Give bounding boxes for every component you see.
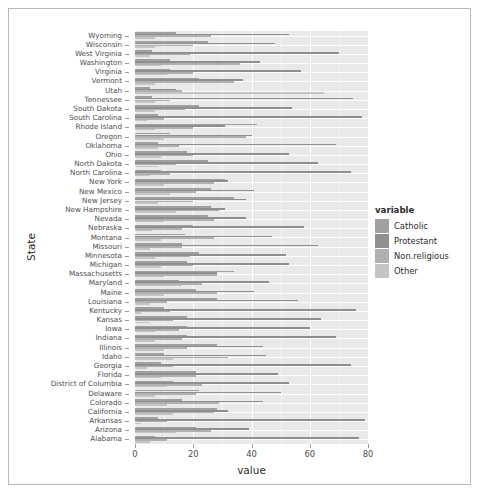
- bar: [135, 248, 150, 250]
- bar: [135, 419, 365, 421]
- y-tick-mark: [125, 247, 129, 248]
- y-tick-mark: [125, 357, 129, 358]
- bar: [135, 386, 167, 388]
- y-tick-mark: [125, 72, 129, 73]
- bar-group: [135, 242, 368, 251]
- y-tick-label: New Jersey: [82, 197, 122, 204]
- y-tick-mark: [125, 219, 129, 220]
- y-tick-mark: [125, 274, 129, 275]
- bar: [135, 423, 141, 425]
- bar: [135, 367, 147, 369]
- y-tick-label: Washington: [80, 60, 122, 67]
- y-tick-mark: [125, 338, 129, 339]
- bar-group: [135, 270, 368, 279]
- bar-group: [135, 288, 368, 297]
- y-tick-mark: [125, 430, 129, 431]
- bar: [135, 211, 176, 213]
- y-tick-label: Minnesota: [85, 252, 122, 259]
- x-tick-mark: [252, 444, 253, 448]
- y-tick-label: Rhode Island: [75, 124, 122, 131]
- y-gridline: [135, 421, 368, 422]
- bar: [135, 74, 167, 76]
- bar: [135, 101, 155, 103]
- y-tick-label: District of Columbia: [51, 381, 122, 388]
- x-tick-mark: [368, 444, 369, 448]
- y-tick-label: Oregon: [96, 133, 122, 140]
- bar-rows: [135, 31, 368, 444]
- x-tick-label: 20: [188, 449, 199, 459]
- bar-group: [135, 114, 368, 123]
- legend-item[interactable]: Other: [375, 263, 470, 278]
- bar-group: [135, 325, 368, 334]
- legend-label: Other: [394, 266, 418, 276]
- bar-group: [135, 224, 368, 233]
- y-tick-mark: [125, 283, 129, 284]
- legend-swatch: [375, 234, 389, 248]
- y-tick-label: Virginia: [95, 69, 122, 76]
- y-tick-mark: [125, 109, 129, 110]
- bar: [135, 202, 158, 204]
- bar: [135, 322, 150, 324]
- bar-group: [135, 187, 368, 196]
- legend-item[interactable]: Non.religious: [375, 248, 470, 263]
- bar-group: [135, 343, 368, 352]
- bar: [135, 92, 324, 94]
- y-tick-mark: [125, 146, 129, 147]
- bar: [135, 184, 164, 186]
- y-tick-mark: [125, 238, 129, 239]
- bar-group: [135, 251, 368, 260]
- chart-screenshot: State WyomingWisconsinWest VirginiaWashi…: [0, 0, 479, 493]
- x-tick-mark: [193, 444, 194, 448]
- legend-swatch: [375, 264, 389, 278]
- bar-group: [135, 159, 368, 168]
- bar-group: [135, 104, 368, 113]
- y-tick-label: Wisconsin: [86, 41, 122, 48]
- y-gridline: [135, 173, 368, 174]
- bar-group: [135, 31, 368, 40]
- y-tick-label: Arizona: [95, 427, 122, 434]
- bar-group: [135, 233, 368, 242]
- y-tick-label: Michigan: [90, 261, 122, 268]
- legend-item[interactable]: Protestant: [375, 233, 470, 248]
- y-tick-label: Kentucky: [89, 307, 122, 314]
- bar: [135, 147, 158, 149]
- y-gridline: [135, 311, 368, 312]
- y-tick-mark: [125, 394, 129, 395]
- y-tick-label: Maryland: [89, 280, 122, 287]
- y-tick-label: Indiana: [95, 335, 122, 342]
- bar-group: [135, 361, 368, 370]
- legend: variable CatholicProtestantNon.religious…: [375, 205, 470, 278]
- y-tick-mark: [125, 311, 129, 312]
- y-tick-mark: [125, 54, 129, 55]
- bar-group: [135, 316, 368, 325]
- bar: [135, 331, 155, 333]
- bar-group: [135, 426, 368, 435]
- y-tick-mark: [125, 127, 129, 128]
- y-tick-label: Georgia: [94, 362, 122, 369]
- legend-swatch: [375, 219, 389, 233]
- bar: [135, 120, 147, 122]
- legend-items: CatholicProtestantNon.religiousOther: [375, 218, 470, 278]
- legend-item[interactable]: Catholic: [375, 218, 470, 233]
- y-tick-label: Alabama: [90, 436, 122, 443]
- bar: [135, 257, 155, 259]
- y-tick-label: California: [88, 408, 122, 415]
- plot-panel: [135, 31, 368, 444]
- y-tick-mark: [125, 100, 129, 101]
- y-tick-mark: [125, 320, 129, 321]
- bar: [135, 116, 362, 118]
- y-tick-mark: [125, 403, 129, 404]
- bar-group: [135, 416, 368, 425]
- y-tick-label: Vermont: [92, 78, 122, 85]
- y-tick-mark: [125, 45, 129, 46]
- y-tick-mark: [125, 293, 129, 294]
- y-tick-mark: [125, 412, 129, 413]
- y-tick-label: Wyoming: [88, 32, 122, 39]
- bar-group: [135, 95, 368, 104]
- bar: [135, 349, 164, 351]
- y-tick-label: Montana: [91, 234, 122, 241]
- y-tick-label: New Hampshire: [65, 206, 122, 213]
- y-tick-label: Iowa: [105, 326, 122, 333]
- y-tick-mark: [125, 302, 129, 303]
- y-tick-label: South Dakota: [73, 105, 122, 112]
